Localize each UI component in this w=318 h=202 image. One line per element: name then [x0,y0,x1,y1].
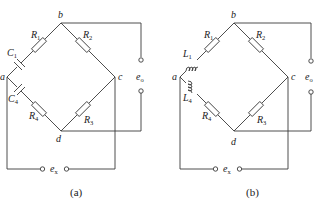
inductor-l1 [186,67,198,71]
r1-label: R1 [30,29,40,41]
r2-label-b: R2 [255,29,265,41]
node-d-label-b: d [231,136,237,147]
input-terminal-right [64,167,68,171]
output-terminal-top-b [309,59,313,63]
node-c-label-b: c [291,71,296,82]
r1-label-b: R1 [203,29,213,41]
r4-label-b: R4 [201,110,212,122]
r2-label: R2 [82,29,92,41]
input-terminal-left-b [213,167,217,171]
caption-a: (a) [70,186,83,199]
input-ex-label: ex [50,163,58,175]
node-b-label-b: b [231,9,236,20]
node-d-label: d [56,133,62,144]
l1-label: L1 [182,48,192,60]
input-terminal-left [40,167,44,171]
output-terminal-bottom [139,89,143,93]
input-terminal-right-b [237,167,241,171]
node-a-label-b: a [172,71,177,82]
panel-b: b a c d R1 R2 R3 R4 L1 L4 eo ex (b) [172,9,313,199]
inductor-l4 [188,81,192,93]
output-eo-label: eo [136,71,144,83]
node-a-label: a [0,71,5,82]
output-eo-label-b: eo [305,71,313,83]
bridge-circuit-figure: b a c d R1 R2 R3 R4 C1 C4 eo ex (a) [0,0,318,202]
l4-label: L4 [182,92,193,104]
r3-label-b: R3 [256,114,266,126]
c1-label: C1 [7,47,17,59]
input-ex-label-b: ex [223,163,231,175]
r4-label: R4 [28,110,39,122]
output-terminal-bottom-b [309,90,313,94]
caption-b: (b) [246,186,259,199]
r3-label: R3 [83,114,93,126]
output-terminal-top [139,58,143,62]
panel-a: b a c d R1 R2 R3 R4 C1 C4 eo ex (a) [0,9,144,199]
node-c-label: c [118,71,123,82]
node-b-label: b [58,9,63,20]
